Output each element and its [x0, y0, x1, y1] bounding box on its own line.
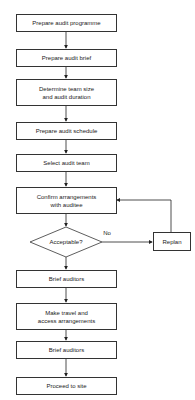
node-proceed-to-site: Proceed to site: [16, 377, 117, 395]
decision-label: Acceptable?: [36, 238, 96, 246]
node-confirm-arrangements: Confirm arrangements with auditee: [16, 187, 117, 214]
node-brief-auditors-2: Brief auditors: [16, 341, 117, 359]
node-prepare-audit-programme: Prepare audit programme: [16, 14, 117, 32]
node-prepare-audit-schedule: Prepare audit schedule: [16, 122, 117, 140]
node-brief-auditors-1: Brief auditors: [16, 270, 117, 288]
node-determine-team-size: Determine team size and audit duration: [16, 79, 117, 106]
node-prepare-audit-brief: Prepare audit brief: [16, 49, 117, 67]
node-make-travel-arrangements: Make travel and access arrangements: [16, 303, 117, 330]
node-select-audit-team: Select audit team: [16, 154, 117, 172]
edge-label-no: No: [100, 229, 114, 237]
node-replan: Replan: [153, 232, 191, 251]
